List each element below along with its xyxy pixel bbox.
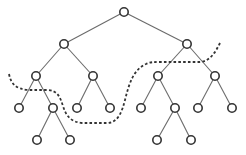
- tree-edge: [36, 44, 64, 76]
- tree-node: [153, 136, 161, 144]
- tree-edge: [93, 76, 110, 108]
- tree-edge: [124, 12, 187, 44]
- tree-node: [60, 40, 68, 48]
- tree-node: [33, 136, 41, 144]
- tree-node: [137, 104, 145, 112]
- tree-node: [49, 104, 57, 112]
- tree-node: [154, 72, 162, 80]
- tree-edge: [187, 44, 215, 76]
- tree-node: [89, 72, 97, 80]
- tree-nodes: [15, 8, 236, 144]
- tree-edge: [64, 12, 124, 44]
- tree-node: [32, 72, 40, 80]
- tree-edge: [36, 76, 53, 108]
- tree-node: [183, 40, 191, 48]
- tree-edge: [215, 76, 232, 108]
- tree-edge: [198, 76, 215, 108]
- tree-edges: [19, 12, 232, 140]
- tree-edge: [77, 76, 93, 108]
- tree-node: [66, 136, 74, 144]
- tree-edge: [64, 44, 93, 76]
- tree-edge: [141, 76, 158, 108]
- tree-edge: [157, 108, 175, 140]
- tree-node: [120, 8, 128, 16]
- tree-edge: [53, 108, 70, 140]
- tree-node: [171, 104, 179, 112]
- tree-node: [15, 104, 23, 112]
- tree-diagram: [0, 0, 246, 155]
- dashed-cut-line: [9, 43, 220, 123]
- tree-edge: [175, 108, 191, 140]
- tree-edge: [158, 76, 175, 108]
- tree-node: [73, 104, 81, 112]
- tree-edge: [37, 108, 53, 140]
- tree-node: [228, 104, 236, 112]
- tree-node: [187, 136, 195, 144]
- tree-node: [106, 104, 114, 112]
- tree-node: [211, 72, 219, 80]
- tree-edge: [158, 44, 187, 76]
- tree-edge: [19, 76, 36, 108]
- tree-node: [194, 104, 202, 112]
